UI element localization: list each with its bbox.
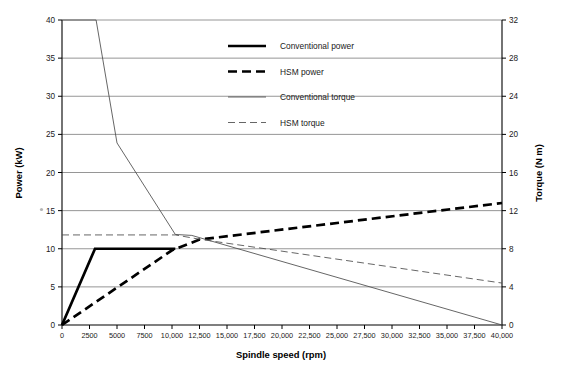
dual-axis-power-torque-chart: 025005000750010,00012,50015,00017,50020,…	[0, 0, 562, 366]
x-tick-label: 25,000	[326, 331, 348, 340]
x-tick-label: 12,500	[188, 331, 210, 340]
stray-mark	[40, 208, 43, 211]
series-hsm-power	[62, 203, 502, 325]
legend-label: HSM power	[280, 67, 324, 77]
y-right-tick-label: 28	[509, 54, 519, 63]
x-tick-label: 7500	[136, 331, 152, 340]
y-left-tick-label: 20	[46, 169, 56, 178]
x-tick-label: 2500	[81, 331, 97, 340]
y-left-tick-label: 5	[50, 283, 55, 292]
x-axis-ticks: 025005000750010,00012,50015,00017,50020,…	[60, 325, 513, 340]
x-tick-label: 22,500	[298, 331, 320, 340]
x-tick-label: 0	[60, 331, 64, 340]
series-hsm-torque	[62, 235, 502, 283]
x-tick-label: 27,500	[353, 331, 375, 340]
y-right-tick-label: 8	[509, 245, 514, 254]
y-left-tick-label: 25	[46, 130, 56, 139]
y-left-tick-label: 40	[46, 16, 56, 25]
y-axis-right-ticks: 048121620242832	[502, 16, 519, 330]
y-right-tick-label: 24	[509, 92, 519, 101]
x-tick-label: 20,000	[271, 331, 293, 340]
x-tick-label: 5000	[109, 331, 125, 340]
x-tick-label: 17,500	[243, 331, 265, 340]
x-tick-label: 10,000	[161, 331, 183, 340]
chart-legend: Conventional powerHSM powerConventional …	[228, 41, 355, 128]
y-axis-left-ticks: 0510152025303540	[46, 16, 62, 330]
y-left-tick-label: 15	[46, 207, 56, 216]
y-left-tick-label: 35	[46, 54, 56, 63]
gridlines	[62, 20, 502, 287]
x-axis-title: Spindle speed (rpm)	[236, 349, 326, 360]
y-left-tick-label: 10	[46, 245, 56, 254]
y-right-tick-label: 16	[509, 169, 519, 178]
y-axis-left-title: Power (kW)	[13, 147, 24, 198]
y-left-tick-label: 30	[46, 92, 56, 101]
y-right-tick-label: 12	[509, 207, 519, 216]
x-tick-label: 40,000	[491, 331, 513, 340]
x-tick-label: 15,000	[216, 331, 238, 340]
x-tick-label: 37,500	[463, 331, 485, 340]
legend-label: HSM torque	[280, 118, 325, 128]
x-tick-label: 32,500	[408, 331, 430, 340]
y-left-tick-label: 0	[50, 321, 55, 330]
y-right-tick-label: 4	[509, 283, 514, 292]
x-tick-label: 30,000	[381, 331, 403, 340]
y-right-tick-label: 32	[509, 16, 519, 25]
chart-container: 025005000750010,00012,50015,00017,50020,…	[0, 0, 562, 366]
legend-label: Conventional torque	[280, 92, 355, 102]
x-tick-label: 35,000	[436, 331, 458, 340]
y-axis-right-title: Torque (N m)	[533, 144, 544, 202]
legend-label: Conventional power	[280, 41, 354, 51]
y-right-tick-label: 0	[509, 321, 514, 330]
y-right-tick-label: 20	[509, 130, 519, 139]
